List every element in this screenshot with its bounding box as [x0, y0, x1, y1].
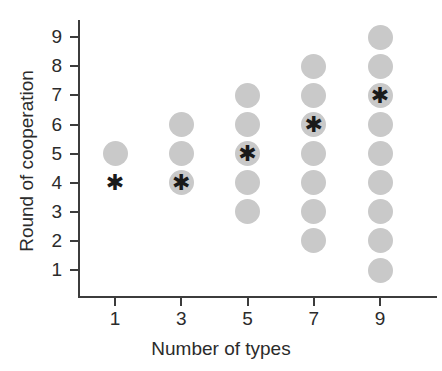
- data-point-dot: [368, 258, 393, 283]
- data-point-dot: [368, 141, 393, 166]
- data-point-dot: [169, 141, 194, 166]
- data-point-dot: [368, 112, 393, 137]
- data-point-asterisk: ✱: [368, 83, 393, 108]
- data-point-asterisk: ✱: [301, 112, 326, 137]
- data-point-dot: [368, 25, 393, 50]
- data-point-dot: [301, 170, 326, 195]
- y-axis-title: Round of cooperation: [16, 21, 38, 301]
- data-point-asterisk: ✱: [103, 170, 128, 195]
- scatter-plot-figure: 987654321 13579 ✱✱✱✱✱ Number of types Ro…: [0, 0, 442, 371]
- plot-area: ✱✱✱✱✱: [0, 0, 442, 371]
- data-point-dot: [368, 54, 393, 79]
- data-point-asterisk: ✱: [169, 170, 194, 195]
- data-point-dot: [368, 199, 393, 224]
- data-point-dot: [301, 228, 326, 253]
- data-point-asterisk: ✱: [235, 141, 260, 166]
- data-point-dot: [235, 199, 260, 224]
- data-point-dot: [235, 83, 260, 108]
- data-point-dot: [368, 170, 393, 195]
- data-point-dot: [301, 83, 326, 108]
- data-point-dot: [301, 199, 326, 224]
- data-point-dot: [368, 228, 393, 253]
- data-point-dot: [235, 170, 260, 195]
- x-axis-title: Number of types: [0, 338, 442, 360]
- data-point-dot: [301, 54, 326, 79]
- data-point-dot: [169, 112, 194, 137]
- data-point-dot: [103, 141, 128, 166]
- data-point-dot: [235, 112, 260, 137]
- data-point-dot: [301, 141, 326, 166]
